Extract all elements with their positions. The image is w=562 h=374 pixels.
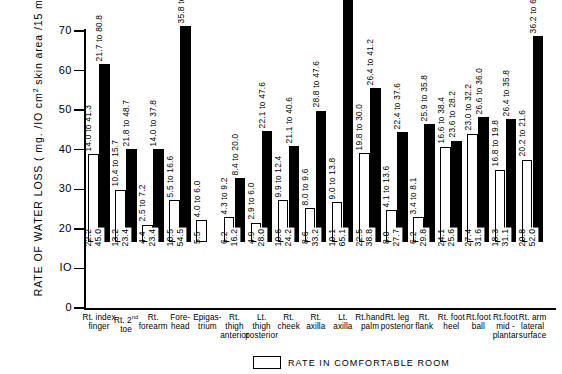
bar-range-label: 2.5 to 7.2 — [138, 185, 146, 222]
bar-stress: 29.8 — [424, 124, 435, 242]
bar-value-label: 4.9 — [247, 232, 256, 245]
legend: RATE IN COMFORTABLE ROOM — [253, 356, 450, 369]
bar-value-label: 54.5 — [175, 228, 186, 248]
bar-range-label: 10.4 to 15.7 — [111, 140, 119, 187]
legend-label-comfortable: RATE IN COMFORTABLE ROOM — [288, 358, 450, 368]
x-axis-label-line: surface — [510, 331, 556, 340]
bar-range-label: 4.3 to 9.2 — [219, 178, 227, 215]
bar-range-label: 22.4 to 37.6 — [393, 83, 401, 130]
bar-value-label: 16.2 — [229, 228, 240, 248]
bar-value-label: 5.5 — [193, 232, 202, 245]
bar-group: 6.23.4 to 8.129.825.9 to 35.8 — [413, 0, 435, 242]
bar-range-label: 3.4 to 8.1 — [409, 178, 417, 215]
bar-value-label: 4.4 — [139, 232, 148, 245]
bar-range-label: 9.0 to 13.8 — [328, 157, 336, 199]
bar-range-label: 28.8 to 47.6 — [312, 61, 320, 108]
bar-range-label: 14.0 to 37.8 — [149, 100, 157, 147]
y-tick-10 — [74, 268, 84, 270]
bar-value-label: 28.0 — [256, 228, 267, 248]
bar-stress: 52.0 — [533, 36, 544, 242]
bar-group: 10.69.9 to 12.424.221.1 to 40.6 — [278, 0, 300, 242]
bar-range-label: 4.0 to 6.0 — [192, 180, 200, 217]
bar-range-label: 21.8 to 48.7 — [122, 100, 130, 147]
bar-group: 13.210.4 to 15.723.421.8 to 48.7 — [115, 0, 137, 242]
bar-range-label: 26.4 to 41.2 — [366, 39, 374, 86]
bar-value-label: 31.6 — [473, 228, 484, 248]
bar-stress: 23.4 — [126, 149, 137, 242]
y-tick-70 — [74, 30, 84, 32]
y-tick-label-60: 60 — [42, 64, 72, 76]
bar-stress: 25.6 — [451, 141, 462, 242]
bar-stress: 27.7 — [397, 132, 408, 242]
bar-stress: 33.2 — [316, 111, 327, 242]
y-tick-label-30: 30 — [42, 182, 72, 194]
bar-range-label: 36.2 to 67.8 — [528, 0, 536, 33]
bar-value-label: 20.8 — [518, 229, 527, 247]
bar-value-label: 22.5 — [356, 229, 365, 247]
bar-value-label: 27.7 — [392, 228, 403, 248]
bar-value-label: 38.8 — [365, 228, 376, 248]
bar-stress: 31.1 — [506, 119, 517, 242]
bar-stress: 16.2 — [235, 178, 246, 242]
x-axis-label-line: posterior — [239, 331, 285, 340]
bar-range-label: 19.8 to 30.0 — [355, 103, 363, 150]
bar-comfortable: 27.4 — [467, 134, 478, 242]
bar-stress: 31.6 — [478, 117, 489, 242]
bar-group: 24.116.6 to 38.425.623.6 to 28.2 — [440, 0, 462, 242]
bar-value-label: 52.0 — [527, 228, 538, 248]
bar-group: 4.42.5 to 7.223.414.0 to 37.8 — [142, 0, 164, 242]
bar-value-label: 27.4 — [464, 229, 473, 247]
legend-swatch-comfortable — [253, 356, 281, 369]
chart-figure: RATE OF WATER LOSS ( mg. /IO cm2 skin ar… — [0, 0, 562, 374]
bar-value-label: 6.2 — [220, 232, 229, 245]
x-axis-label-line: lateral — [510, 322, 556, 331]
bar-group: 10.19.0 to 13.865.121.2 to 99.6 — [332, 0, 354, 242]
bar-range-label: 16.8 to 19.8 — [490, 120, 498, 167]
bar-range-label: 25.9 to 35.8 — [420, 74, 428, 121]
bar-stress: 23.4 — [153, 149, 164, 242]
plot-area: 22.214.0 to 41.345.021.7 to 80.813.210.4… — [85, 31, 547, 308]
bar-range-label: 8.4 to 20.0 — [230, 133, 238, 175]
bar-group: 5.54.0 to 6.0 — [196, 0, 218, 242]
bar-value-label: 8.6 — [301, 232, 310, 245]
bar-range-label: 8.0 to 9.6 — [301, 168, 309, 205]
bar-value-label: 29.8 — [419, 228, 430, 248]
bar-value-label: 22.2 — [85, 229, 94, 247]
bar-group: 6.24.3 to 9.216.28.4 to 20.0 — [224, 0, 246, 242]
bar-value-label: 10.1 — [329, 229, 338, 247]
bar-stress: 38.8 — [370, 88, 381, 242]
bar-range-label: 35.8 to 73.2 — [176, 0, 184, 23]
bar-range-label: 16.6 to 38.4 — [436, 97, 444, 144]
bar-range-label: 21.7 to 80.8 — [95, 14, 103, 61]
bar-value-label: 8.0 — [383, 232, 392, 245]
bar-value-label: 23.4 — [148, 228, 159, 248]
y-tick-30 — [74, 189, 84, 191]
bar-value-label: 23.4 — [121, 228, 132, 248]
bar-stress: 45.0 — [99, 64, 110, 242]
bar-range-label: 23.6 to 28.2 — [447, 91, 455, 138]
y-tick-0 — [74, 307, 84, 309]
y-tick-label-50: 50 — [42, 103, 72, 115]
bar-group: 22.214.0 to 41.345.021.7 to 80.8 — [88, 0, 110, 242]
x-axis-line — [84, 308, 556, 310]
bar-range-label: 20.2 to 21.6 — [517, 110, 525, 157]
bar-group: 8.68.0 to 9.633.228.8 to 47.6 — [305, 0, 327, 242]
bar-group: 4.92.9 to 6.028.022.1 to 47.6 — [251, 0, 273, 242]
y-tick-label-10: IO — [42, 261, 72, 273]
bar-range-label: 23.0 to 32.2 — [463, 84, 471, 131]
y-tick-label-70: 70 — [42, 24, 72, 36]
bar-value-label: 25.6 — [446, 228, 457, 248]
y-axis-title-superscript: 2 — [32, 88, 39, 92]
bar-value-label: 18.3 — [491, 229, 500, 247]
bar-group: 18.316.8 to 19.831.126.4 to 35.8 — [495, 0, 517, 242]
bar-value-label: 33.2 — [310, 228, 321, 248]
bar-value-label: 6.2 — [410, 232, 419, 245]
bar-range-label: 9.9 to 12.4 — [274, 155, 282, 197]
bar-range-label: 22.1 to 47.6 — [257, 82, 265, 129]
bar-value-label: 24.2 — [283, 228, 294, 248]
bar-stress: 65.1 — [343, 0, 354, 242]
bar-value-label: 13.2 — [112, 229, 121, 247]
bar-value-label: 24.1 — [437, 229, 446, 247]
bar-range-label: 26.6 to 36.0 — [474, 67, 482, 114]
bar-range-label: 26.4 to 35.8 — [501, 69, 509, 116]
